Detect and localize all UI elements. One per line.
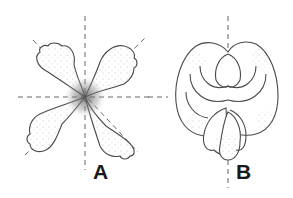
flower-center-shading xyxy=(63,75,107,119)
panel-label-b: B xyxy=(236,161,251,182)
flower-b xyxy=(148,16,278,188)
panel-label-a: A xyxy=(93,161,108,182)
flower-a xyxy=(18,16,150,170)
